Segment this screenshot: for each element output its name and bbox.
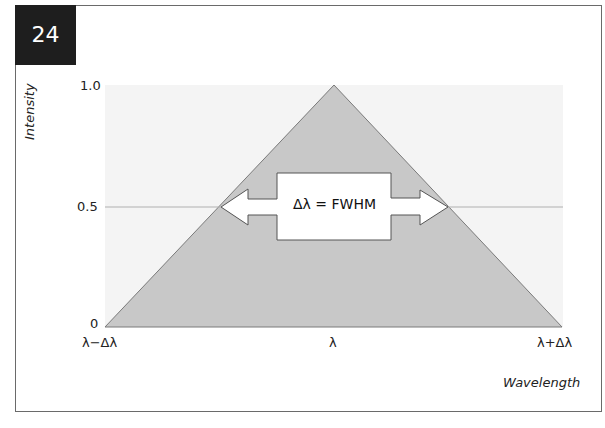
y-axis-label: Intensity bbox=[22, 83, 37, 140]
x-tick-lambda-minus: λ−Δλ bbox=[82, 335, 117, 350]
y-tick-0: 0 bbox=[90, 316, 98, 331]
x-tick-lambda: λ bbox=[329, 335, 337, 350]
x-axis-label: Wavelength bbox=[503, 375, 580, 390]
y-tick-1-0: 1.0 bbox=[80, 78, 101, 93]
chart-canvas bbox=[0, 0, 605, 428]
y-tick-0-5: 0.5 bbox=[77, 199, 98, 214]
fwhm-annotation: Δλ = FWHM bbox=[277, 196, 392, 212]
x-tick-lambda-plus: λ+Δλ bbox=[537, 335, 572, 350]
